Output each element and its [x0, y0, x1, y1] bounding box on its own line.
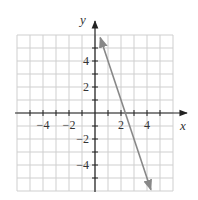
- x-tick-label: −2: [63, 118, 76, 132]
- y-axis-label: y: [78, 12, 86, 27]
- coordinate-plane: −4−22442−2−4 x y: [0, 0, 198, 200]
- x-tick-label: 2: [118, 118, 124, 132]
- y-tick-label: 2: [83, 80, 89, 94]
- x-tick-label: −4: [37, 118, 50, 132]
- y-tick-label: 4: [83, 54, 89, 68]
- y-tick-label: −2: [76, 132, 89, 146]
- x-tick-label: 4: [144, 118, 150, 132]
- x-axis-label: x: [179, 118, 186, 133]
- axes: [15, 21, 187, 192]
- y-tick-label: −4: [76, 158, 89, 172]
